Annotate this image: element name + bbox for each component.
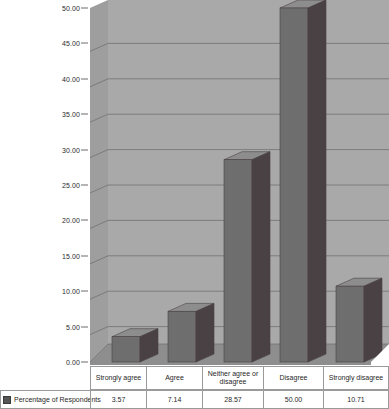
y-axis-tick-mark xyxy=(81,291,88,292)
bar-side-face xyxy=(364,278,382,362)
y-axis-tick-mark xyxy=(81,78,88,79)
bar-neither-agree-or-disagree[interactable] xyxy=(224,152,270,362)
y-axis-label-50: 50.00 xyxy=(62,5,80,12)
y-axis-label-25: 25.00 xyxy=(62,182,80,189)
value-row: Percentage of Respondents 3.57 7.14 28.5… xyxy=(0,390,389,409)
plot-3d-canvas xyxy=(90,0,389,365)
value-cell-neither-agree-or-disagree: 28.57 xyxy=(202,390,263,409)
bar-strongly-disagree[interactable] xyxy=(336,278,382,362)
y-axis-label-30: 30.00 xyxy=(62,146,80,153)
category-cell-disagree: Disagree xyxy=(263,366,323,390)
bar-chart-figure: 50.00 45.00 40.00 35.00 30.00 25.00 20.0… xyxy=(0,0,389,409)
legend-series-label: Percentage of Respondents xyxy=(14,396,101,403)
y-axis-tick-mark xyxy=(81,220,88,221)
y-axis: 50.00 45.00 40.00 35.00 30.00 25.00 20.0… xyxy=(0,0,90,365)
y-axis-tick-mark xyxy=(81,185,88,186)
y-axis-label-40: 40.00 xyxy=(62,75,80,82)
legend-square-icon xyxy=(3,396,11,404)
value-cell-strongly-disagree: 10.71 xyxy=(323,390,389,409)
y-axis-label-5: 5.00 xyxy=(66,323,80,330)
y-axis-label-15: 15.00 xyxy=(62,252,80,259)
y-axis-label-35: 35.00 xyxy=(62,111,80,118)
bar-strongly-agree[interactable] xyxy=(112,329,158,362)
bar-disagree[interactable] xyxy=(280,0,326,362)
bar-front-face xyxy=(280,8,308,362)
bar-front-face xyxy=(112,337,140,362)
y-axis-label-45: 45.00 xyxy=(62,40,80,47)
bar-side-face xyxy=(308,0,326,362)
y-axis-tick-mark xyxy=(81,255,88,256)
category-header-row: Strongly agree Agree Neither agree or di… xyxy=(90,366,389,390)
y-axis-tick-mark xyxy=(81,149,88,150)
floor-front-edge xyxy=(90,362,389,365)
legend-entry: Percentage of Respondents xyxy=(0,390,90,409)
bar-agree[interactable] xyxy=(168,303,214,362)
category-cell-strongly-agree: Strongly agree xyxy=(90,366,146,390)
bar-side-face xyxy=(252,152,270,362)
category-cell-agree: Agree xyxy=(146,366,202,390)
bar-front-face xyxy=(336,286,364,362)
plot-area xyxy=(90,0,389,365)
y-axis-label-10: 10.00 xyxy=(62,288,80,295)
bar-side-face xyxy=(196,303,214,362)
category-cell-neither-agree-or-disagree: Neither agree or disagree xyxy=(202,366,263,390)
value-cell-agree: 7.14 xyxy=(146,390,202,409)
y-axis-label-20: 20.00 xyxy=(62,217,80,224)
left-wall xyxy=(90,0,108,362)
category-cell-strongly-disagree: Strongly disagree xyxy=(323,366,389,390)
bar-front-face xyxy=(168,311,196,362)
y-axis-label-0: 0.00 xyxy=(66,359,80,366)
y-axis-tick-mark xyxy=(81,362,88,363)
bar-front-face xyxy=(224,160,252,362)
data-table: Strongly agree Agree Neither agree or di… xyxy=(0,366,389,409)
y-axis-tick-mark xyxy=(81,114,88,115)
y-axis-tick-mark xyxy=(81,43,88,44)
y-axis-tick-mark xyxy=(81,8,88,9)
value-cell-strongly-agree: 3.57 xyxy=(90,390,146,409)
y-axis-tick-mark xyxy=(81,326,88,327)
value-cell-disagree: 50.00 xyxy=(263,390,323,409)
